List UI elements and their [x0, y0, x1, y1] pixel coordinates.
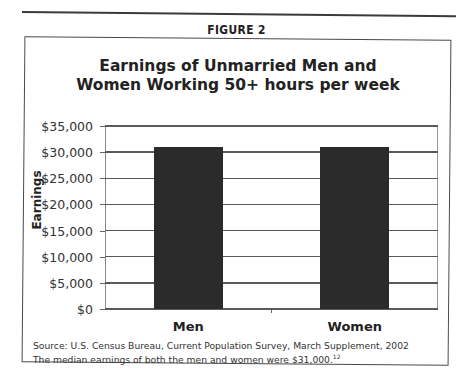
- y-tick-mark: [100, 309, 105, 310]
- chart-title: Earnings of Unmarried Men and Women Work…: [23, 57, 453, 95]
- y-tick-label: $10,000: [23, 249, 93, 264]
- y-tick-label: $15,000: [23, 223, 93, 238]
- y-tick-mark: [100, 152, 105, 153]
- y-tick-label: $25,000: [23, 171, 93, 186]
- plot-area: [105, 126, 438, 309]
- y-tick-label: $35,000: [23, 119, 93, 134]
- top-rule: [22, 11, 456, 17]
- figure-label: FIGURE 2: [43, 22, 431, 37]
- x-category-label: Women: [328, 319, 382, 334]
- x-category-label: Men: [173, 319, 204, 334]
- y-tick-mark: [100, 126, 105, 127]
- chart-title-line-1: Earnings of Unmarried Men and: [23, 57, 453, 76]
- y-tick-label: $20,000: [23, 197, 93, 212]
- source-text: Source: U.S. Census Bureau, Current Popu…: [33, 340, 409, 351]
- y-tick-mark: [100, 257, 105, 258]
- footnote-reference: 12: [333, 353, 341, 360]
- y-tick-mark: [100, 204, 105, 205]
- footnote: Source: U.S. Census Bureau, Current Popu…: [33, 340, 409, 365]
- gridline: [105, 125, 438, 127]
- bar-women: [320, 147, 389, 309]
- chart-title-line-2: Women Working 50+ hours per week: [23, 76, 453, 95]
- y-tick-mark: [100, 178, 105, 179]
- y-tick-label: $5,000: [23, 275, 93, 290]
- y-tick-label: $30,000: [23, 145, 93, 160]
- note-body: The median earnings of both the men and …: [33, 354, 333, 365]
- bar-men: [154, 147, 223, 309]
- note-text: The median earnings of both the men and …: [33, 351, 409, 365]
- y-tick-mark: [100, 231, 105, 232]
- y-tick-mark: [100, 283, 105, 284]
- y-tick-label: $0: [23, 302, 93, 317]
